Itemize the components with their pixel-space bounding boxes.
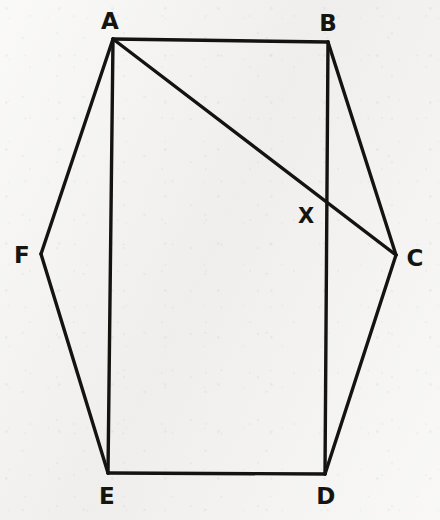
segment-bd — [325, 42, 328, 474]
vertex-label-c: C — [406, 247, 423, 270]
segment-ab — [113, 39, 328, 42]
geometry-figure — [0, 0, 440, 520]
segment-bc — [328, 42, 396, 255]
vertex-label-b: B — [319, 12, 337, 35]
vertex-label-d: D — [316, 485, 335, 508]
diagram-canvas: ABCDEFX — [0, 0, 440, 520]
segments-group — [41, 39, 396, 474]
segment-ac — [113, 39, 396, 255]
segment-ef — [41, 254, 108, 473]
vertex-label-e: E — [99, 485, 115, 508]
segment-cd — [325, 255, 396, 474]
segment-fa — [41, 39, 113, 254]
point-label-x: X — [298, 206, 314, 227]
segment-ae — [108, 39, 113, 473]
vertex-label-f: F — [14, 244, 30, 267]
vertex-label-a: A — [101, 10, 119, 33]
segment-de — [108, 473, 325, 474]
